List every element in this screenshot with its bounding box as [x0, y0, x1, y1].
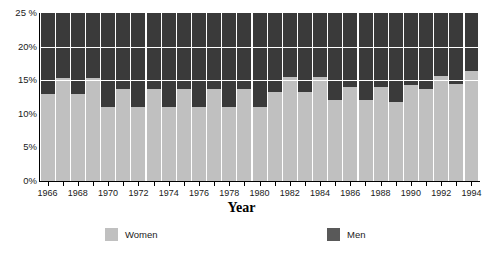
x-tick	[184, 181, 185, 186]
bar-column[interactable]	[404, 13, 418, 181]
bar-segment-men	[298, 13, 312, 92]
bar-segment-women	[374, 87, 388, 181]
x-tick-label: 1966	[31, 188, 65, 198]
bar-column[interactable]	[328, 13, 342, 181]
chart-legend: Women Men	[0, 228, 483, 250]
bar-column[interactable]	[56, 13, 70, 181]
x-tick	[471, 181, 472, 186]
bar-segment-women	[404, 85, 418, 181]
bar-column[interactable]	[359, 13, 373, 181]
legend-swatch-men-icon	[327, 228, 340, 241]
bar-segment-men	[313, 13, 327, 77]
x-tick	[229, 181, 230, 186]
bar-column[interactable]	[162, 13, 176, 181]
bar-column[interactable]	[313, 13, 327, 181]
bar-segment-men	[101, 13, 115, 107]
x-tick-label: 1980	[243, 188, 277, 198]
bar-column[interactable]	[147, 13, 161, 181]
x-tick	[214, 181, 215, 186]
bar-column[interactable]	[222, 13, 236, 181]
bar-column[interactable]	[298, 13, 312, 181]
bar-segment-men	[328, 13, 342, 100]
bar-segment-women	[222, 107, 236, 181]
bar-column[interactable]	[465, 13, 479, 181]
x-tick-label: 1992	[424, 188, 458, 198]
bar-column[interactable]	[101, 13, 115, 181]
x-tick-label: 1994	[454, 188, 483, 198]
x-tick	[290, 181, 291, 186]
x-tick-label: 1974	[152, 188, 186, 198]
bar-segment-women	[313, 77, 327, 181]
bar-segment-men	[237, 13, 251, 89]
bar-segment-men	[465, 13, 479, 71]
bar-segment-women	[343, 87, 357, 181]
bar-segment-women	[237, 89, 251, 181]
bar-column[interactable]	[343, 13, 357, 181]
bar-column[interactable]	[374, 13, 388, 181]
y-axis-line	[39, 13, 40, 182]
bar-segment-men	[131, 13, 145, 107]
bar-segment-men	[449, 13, 463, 84]
bar-segment-men	[116, 13, 130, 89]
bar-column[interactable]	[389, 13, 403, 181]
bar-column[interactable]	[41, 13, 55, 181]
x-tick	[381, 181, 382, 186]
x-tick	[244, 181, 245, 186]
bar-segment-women	[116, 89, 130, 181]
bar-segment-women	[328, 100, 342, 181]
bar-segment-men	[359, 13, 373, 100]
bar-column[interactable]	[237, 13, 251, 181]
bar-segment-women	[253, 107, 267, 181]
x-tick-label: 1972	[121, 188, 155, 198]
chart-figure: 0%5%10%15%20%25 % 1966196819701972197419…	[0, 0, 483, 259]
bar-segment-men	[177, 13, 191, 89]
y-tick-label: 15%	[1, 75, 37, 85]
x-tick	[199, 181, 200, 186]
x-tick	[260, 181, 261, 186]
y-tick-label: 10%	[1, 109, 37, 119]
bar-column[interactable]	[253, 13, 267, 181]
bar-column[interactable]	[177, 13, 191, 181]
bar-column[interactable]	[268, 13, 282, 181]
bar-column[interactable]	[283, 13, 297, 181]
x-tick-label: 1968	[61, 188, 95, 198]
bar-segment-women	[162, 107, 176, 181]
bar-column[interactable]	[131, 13, 145, 181]
legend-label-women: Women	[125, 229, 158, 240]
bar-segment-men	[41, 13, 55, 94]
bar-column[interactable]	[419, 13, 433, 181]
bar-segment-men	[253, 13, 267, 107]
bar-column[interactable]	[449, 13, 463, 181]
bar-column[interactable]	[116, 13, 130, 181]
bar-segment-men	[207, 13, 221, 89]
bar-segment-women	[359, 100, 373, 181]
legend-item-women[interactable]: Women	[105, 228, 158, 241]
y-tick-label: 5%	[1, 142, 37, 152]
legend-item-men[interactable]: Men	[327, 228, 365, 241]
bar-segment-women	[389, 102, 403, 181]
bar-segment-men	[162, 13, 176, 107]
bar-segment-women	[71, 94, 85, 181]
x-tick-label: 1990	[394, 188, 428, 198]
x-tick	[320, 181, 321, 186]
x-tick-label: 1984	[303, 188, 337, 198]
bar-segment-men	[71, 13, 85, 94]
y-tick-label: 20%	[1, 42, 37, 52]
bar-column[interactable]	[207, 13, 221, 181]
bar-segment-women	[177, 89, 191, 181]
x-tick	[411, 181, 412, 186]
x-tick	[305, 181, 306, 186]
y-axis-labels: 0%5%10%15%20%25 %	[0, 0, 37, 195]
bar-column[interactable]	[434, 13, 448, 181]
x-axis-title: Year	[0, 200, 483, 216]
bar-column[interactable]	[192, 13, 206, 181]
bar-segment-women	[207, 89, 221, 181]
x-tick	[78, 181, 79, 186]
bar-segment-men	[147, 13, 161, 89]
bar-series-group	[40, 13, 479, 181]
x-tick	[426, 181, 427, 186]
bar-column[interactable]	[86, 13, 100, 181]
legend-swatch-women-icon	[105, 228, 118, 241]
bar-column[interactable]	[71, 13, 85, 181]
plot-area	[40, 13, 479, 181]
